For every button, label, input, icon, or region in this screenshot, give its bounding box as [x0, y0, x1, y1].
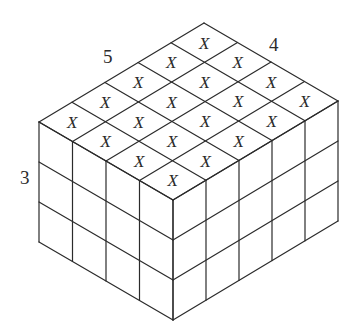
x-mark: X [233, 132, 245, 151]
x-mark: X [165, 53, 177, 72]
width-label: 4 [269, 35, 279, 54]
x-mark: X [199, 112, 211, 131]
right-face-horizontal-line [173, 181, 338, 280]
x-mark: X [199, 73, 211, 92]
top-grid-line [73, 43, 238, 142]
x-mark: X [166, 93, 178, 112]
x-mark: X [232, 53, 244, 72]
top-grid-line [106, 62, 271, 161]
x-mark: X [266, 112, 278, 131]
x-mark: X [66, 113, 78, 132]
right-face-horizontal-line [173, 141, 338, 240]
right-face-horizontal-line [173, 101, 338, 200]
top-face-grid [39, 23, 338, 200]
x-mark: X [100, 132, 112, 151]
length-label: 5 [103, 47, 113, 66]
x-mark: X [200, 152, 212, 171]
right-face-horizontal-line [173, 221, 338, 320]
x-mark: X [167, 171, 179, 190]
top-grid-line [140, 82, 305, 181]
cuboid-grid-drawing: XXXXXXXXXXXXXXXXXXXX [0, 0, 363, 336]
x-mark: X [198, 34, 210, 53]
x-mark: X [166, 132, 178, 151]
x-mark: X [133, 152, 145, 171]
x-mark: X [133, 113, 145, 132]
left-face-grid [39, 122, 173, 320]
right-face-grid [173, 101, 338, 320]
height-label: 3 [20, 168, 30, 187]
x-mark: X [299, 92, 311, 111]
cuboid-diagram: XXXXXXXXXXXXXXXXXXXX 5 4 3 [0, 0, 363, 336]
top-grid-line [39, 23, 204, 122]
x-mark: X [99, 93, 111, 112]
x-mark: X [232, 92, 244, 111]
x-mark: X [265, 73, 277, 92]
x-mark: X [132, 73, 144, 92]
